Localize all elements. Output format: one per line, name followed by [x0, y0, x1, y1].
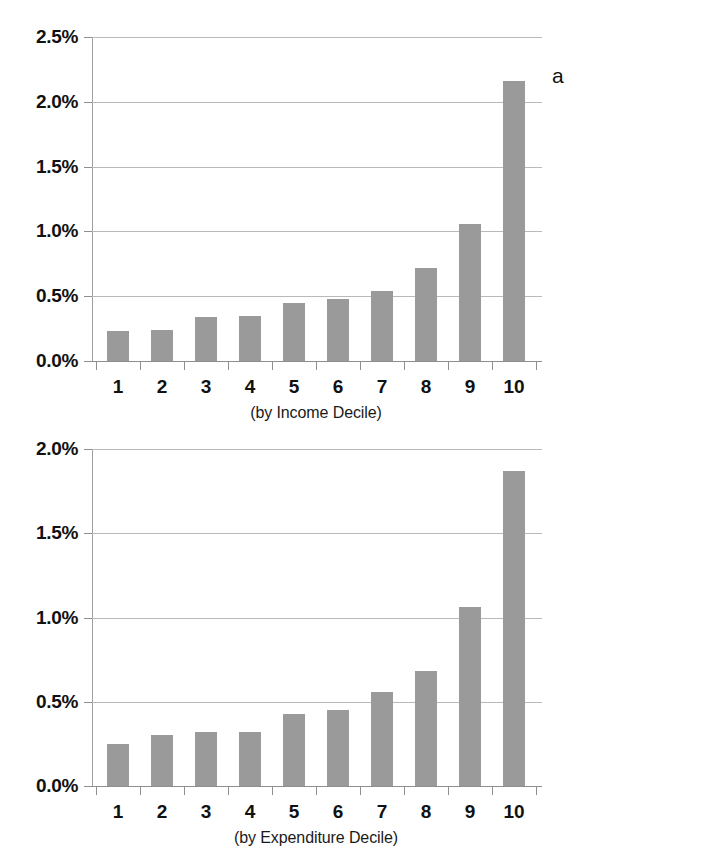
x-axis-labels-a: 12345678910	[92, 376, 540, 398]
x-axis-tick	[228, 361, 229, 370]
bar-cell	[140, 449, 184, 786]
bar	[107, 744, 129, 786]
y-axis-tick-label: 2.0%	[0, 438, 78, 460]
bar	[371, 692, 393, 786]
x-axis-tick-label: 6	[316, 376, 360, 398]
y-axis-tick-label: 1.5%	[0, 522, 78, 544]
bar	[503, 471, 525, 786]
y-axis-tick	[84, 167, 92, 168]
figure-caption	[4, 843, 718, 853]
bar	[327, 710, 349, 786]
y-axis-tick	[84, 37, 92, 38]
bar-cell	[316, 37, 360, 361]
y-axis-tick-label: 0.5%	[0, 691, 78, 713]
bar	[151, 330, 173, 361]
x-axis-tick	[448, 786, 449, 795]
x-axis-tick	[448, 361, 449, 370]
x-axis-tick-label: 8	[404, 801, 448, 823]
x-axis-labels-b: 12345678910	[92, 801, 540, 823]
bar-series-a	[92, 37, 540, 361]
y-axis-tick	[84, 102, 92, 103]
y-axis-labels-a: 0.0%0.5%1.0%1.5%2.0%2.5%	[0, 8, 78, 420]
bar-cell	[96, 449, 140, 786]
bar	[239, 316, 261, 361]
x-axis-tick	[96, 786, 97, 795]
x-axis-tick	[272, 361, 273, 370]
y-axis-tick	[84, 296, 92, 297]
bar-cell	[228, 449, 272, 786]
bar	[195, 732, 217, 786]
x-axis-tick-label: 1	[96, 801, 140, 823]
bar	[283, 714, 305, 786]
bar	[327, 299, 349, 361]
x-axis-tick	[184, 361, 185, 370]
x-axis-tick-label: 7	[360, 801, 404, 823]
y-axis-tick	[84, 533, 92, 534]
bar	[459, 224, 481, 361]
bar	[107, 331, 129, 361]
bar-cell	[228, 37, 272, 361]
x-axis-tick	[184, 786, 185, 795]
y-axis-tick-label: 1.0%	[0, 607, 78, 629]
x-axis-ticks-a	[92, 361, 540, 370]
bar-series-b	[92, 449, 540, 786]
x-axis-tick	[316, 786, 317, 795]
bar-cell	[492, 449, 536, 786]
bar-cell	[140, 37, 184, 361]
y-axis-tick	[84, 702, 92, 703]
x-axis-tick-label: 1	[96, 376, 140, 398]
chart-panel-a: 0.0%0.5%1.0%1.5%2.0%2.5% 12345678910 (by…	[0, 8, 722, 420]
bar	[503, 81, 525, 361]
x-axis-tick-label: 2	[140, 801, 184, 823]
x-axis-tick-label: 10	[492, 376, 536, 398]
bar-cell	[184, 449, 228, 786]
bar-cell	[404, 449, 448, 786]
chart-panel-b: 0.0%0.5%1.0%1.5%2.0% 12345678910 (by Exp…	[0, 424, 722, 824]
y-axis-tick-label: 0.0%	[0, 350, 78, 372]
x-axis-tick-label: 7	[360, 376, 404, 398]
bar	[371, 291, 393, 361]
x-axis-tick	[536, 361, 537, 370]
bar-cell	[448, 449, 492, 786]
bar-cell	[404, 37, 448, 361]
x-axis-tick	[492, 361, 493, 370]
x-axis-ticks-b	[92, 786, 540, 795]
x-axis-tick	[360, 786, 361, 795]
x-axis-tick-label: 9	[448, 376, 492, 398]
x-axis-tick-label: 4	[228, 376, 272, 398]
bar	[415, 268, 437, 361]
x-axis-tick	[360, 361, 361, 370]
panel-letter-a: a	[552, 64, 564, 88]
y-axis-tick	[84, 361, 92, 362]
bar	[195, 317, 217, 361]
x-axis-title-a: (by Income Decile)	[92, 404, 540, 422]
bar	[239, 732, 261, 786]
y-axis-tick-label: 1.5%	[0, 156, 78, 178]
bar-cell	[184, 37, 228, 361]
bar	[151, 735, 173, 786]
x-axis-tick-label: 8	[404, 376, 448, 398]
x-axis-tick	[404, 361, 405, 370]
x-axis-tick-label: 4	[228, 801, 272, 823]
x-axis-tick-label: 9	[448, 801, 492, 823]
x-axis-tick-label: 3	[184, 376, 228, 398]
bar-cell	[360, 37, 404, 361]
bar-cell	[492, 37, 536, 361]
y-axis-tick	[84, 786, 92, 787]
bar	[459, 607, 481, 786]
x-axis-tick	[272, 786, 273, 795]
x-axis-tick	[140, 361, 141, 370]
plot-area-a	[92, 37, 540, 361]
bar	[415, 671, 437, 786]
bar-cell	[272, 37, 316, 361]
y-axis-tick-label: 0.5%	[0, 285, 78, 307]
bar	[283, 303, 305, 361]
x-axis-tick	[96, 361, 97, 370]
y-axis-tick-label: 0.0%	[0, 775, 78, 797]
y-axis-tick	[84, 231, 92, 232]
x-axis-tick-label: 6	[316, 801, 360, 823]
y-axis-tick-label: 2.0%	[0, 91, 78, 113]
x-axis-tick	[536, 786, 537, 795]
bar-cell	[360, 449, 404, 786]
x-axis-tick-label: 10	[492, 801, 536, 823]
